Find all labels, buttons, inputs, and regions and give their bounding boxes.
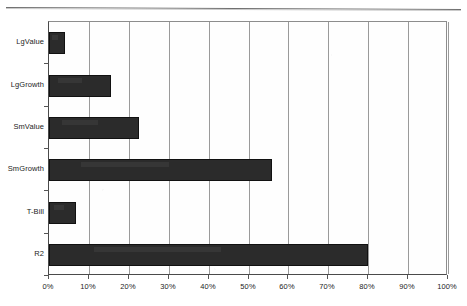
value-label-70: 70% bbox=[319, 282, 334, 291]
category-label-lgvalue: LgValue bbox=[0, 37, 44, 46]
category-label-lggrowth: LgGrowth bbox=[0, 80, 44, 89]
value-label-30: 30% bbox=[160, 282, 175, 291]
value-label-50: 50% bbox=[240, 282, 255, 291]
value-label-100: 100% bbox=[437, 282, 457, 291]
value-tick-30 bbox=[168, 275, 169, 279]
category-tick bbox=[44, 106, 49, 107]
value-tick-40 bbox=[208, 275, 209, 279]
category-tick bbox=[44, 148, 49, 149]
value-tick-70 bbox=[327, 275, 328, 279]
value-tick-90 bbox=[407, 275, 408, 279]
value-tick-50 bbox=[248, 275, 249, 279]
category-axis-labels: LgValueLgGrowthSmValueSmGrowthT-BillR2 bbox=[0, 0, 467, 306]
value-label-90: 90% bbox=[399, 282, 414, 291]
category-tick bbox=[44, 190, 49, 191]
value-tick-100 bbox=[447, 275, 448, 279]
category-tick bbox=[44, 63, 49, 64]
value-label-10: 10% bbox=[80, 282, 95, 291]
category-label-smgrowth: SmGrowth bbox=[0, 164, 44, 173]
horizontal-bar-chart: LgValueLgGrowthSmValueSmGrowthT-BillR2 0… bbox=[0, 0, 467, 306]
value-label-0: 0% bbox=[42, 282, 53, 291]
value-tick-80 bbox=[367, 275, 368, 279]
value-label-80: 80% bbox=[359, 282, 374, 291]
category-label-smvalue: SmValue bbox=[0, 122, 44, 131]
value-tick-60 bbox=[287, 275, 288, 279]
category-label-t-bill: T-Bill bbox=[0, 207, 44, 216]
value-tick-0 bbox=[48, 275, 49, 279]
value-tick-10 bbox=[88, 275, 89, 279]
value-label-60: 60% bbox=[279, 282, 294, 291]
value-label-40: 40% bbox=[200, 282, 215, 291]
value-label-20: 20% bbox=[120, 282, 135, 291]
value-tick-20 bbox=[128, 275, 129, 279]
category-label-r2: R2 bbox=[0, 249, 44, 258]
category-tick bbox=[44, 233, 49, 234]
